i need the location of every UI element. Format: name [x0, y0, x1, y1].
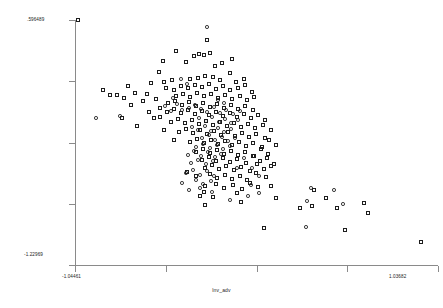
data-point-square	[239, 165, 242, 168]
data-point-square	[267, 138, 270, 141]
data-point-square	[205, 38, 208, 41]
data-point-square	[244, 161, 247, 164]
data-point-square	[197, 52, 200, 55]
data-point-square	[265, 156, 268, 159]
data-point-circle	[163, 104, 167, 108]
data-point-square	[229, 103, 232, 106]
data-point-square	[255, 162, 258, 165]
scatter-plot-figure: .596489 -1.22969 -1.04461 1.03682 lnv_ad…	[0, 0, 443, 308]
data-point-square	[197, 122, 200, 125]
data-point-square	[193, 112, 196, 115]
data-point-square	[222, 152, 225, 155]
data-point-square	[202, 141, 205, 144]
data-point-square	[238, 94, 241, 97]
data-point-square	[166, 101, 169, 104]
data-point-square	[115, 93, 118, 96]
data-point-square	[211, 75, 214, 78]
data-point-square	[218, 78, 221, 81]
data-point-square	[133, 91, 136, 94]
data-point-square	[202, 190, 205, 193]
data-point-square	[324, 196, 327, 199]
data-point-square	[310, 204, 313, 207]
data-point-circle	[184, 171, 188, 175]
data-point-square	[198, 128, 201, 131]
data-point-circle	[222, 101, 226, 105]
data-point-circle	[305, 199, 309, 203]
data-point-circle	[222, 130, 226, 134]
data-point-square	[252, 154, 255, 157]
data-point-square	[254, 171, 257, 174]
data-point-square	[194, 150, 197, 153]
data-point-square	[263, 118, 266, 121]
data-point-circle	[209, 179, 213, 183]
data-point-square	[235, 115, 238, 118]
data-point-square	[187, 100, 190, 103]
data-point-square	[230, 143, 233, 146]
data-point-circle	[208, 146, 212, 150]
data-point-circle	[94, 116, 98, 120]
data-point-square	[419, 240, 422, 243]
data-point-square	[242, 77, 245, 80]
data-point-square	[188, 95, 191, 98]
data-point-square	[120, 116, 123, 119]
data-point-circle	[235, 166, 239, 170]
data-point-square	[269, 164, 272, 167]
data-point-square	[253, 126, 256, 129]
x-axis-tick	[347, 266, 348, 272]
data-point-square	[209, 138, 212, 141]
data-point-square	[208, 105, 211, 108]
data-point-square	[234, 80, 237, 83]
data-point-circle	[229, 127, 233, 131]
data-point-circle	[257, 191, 261, 195]
data-point-circle	[200, 136, 204, 140]
data-point-circle	[304, 225, 308, 229]
data-point-square	[232, 168, 235, 171]
data-point-square	[208, 51, 211, 54]
data-point-square	[204, 119, 207, 122]
data-point-circle	[171, 96, 175, 100]
data-point-square	[200, 85, 203, 88]
data-point-square	[129, 103, 132, 106]
y-axis-tick	[69, 204, 76, 205]
data-point-square	[228, 111, 231, 114]
data-point-square	[196, 76, 199, 79]
data-point-circle	[180, 181, 184, 185]
data-point-square	[239, 200, 242, 203]
data-point-square	[194, 104, 197, 107]
data-point-circle	[187, 106, 191, 110]
data-point-square	[335, 206, 338, 209]
data-point-circle	[250, 166, 254, 170]
data-point-square	[161, 59, 164, 62]
data-point-square	[221, 156, 224, 159]
data-point-square	[242, 112, 245, 115]
data-point-circle	[186, 153, 190, 157]
data-point-square	[207, 82, 210, 85]
data-point-square	[220, 61, 223, 64]
data-point-circle	[169, 109, 173, 113]
data-point-square	[218, 120, 221, 123]
data-point-square	[251, 154, 254, 157]
data-point-square	[362, 201, 365, 204]
data-point-circle	[217, 120, 221, 124]
data-point-circle	[185, 82, 189, 86]
data-point-square	[256, 113, 259, 116]
data-point-square	[238, 174, 241, 177]
data-point-circle	[192, 149, 196, 153]
data-point-circle	[215, 143, 219, 147]
data-point-circle	[205, 110, 209, 114]
data-point-square	[236, 86, 239, 89]
data-point-circle	[205, 169, 209, 173]
data-point-square	[200, 109, 203, 112]
data-point-square	[180, 103, 183, 106]
data-point-square	[254, 132, 257, 135]
data-point-square	[211, 123, 214, 126]
data-point-square	[126, 84, 129, 87]
data-point-square	[188, 77, 191, 80]
data-point-square	[243, 104, 246, 107]
data-point-square	[195, 137, 198, 140]
y-axis-tick	[69, 143, 76, 144]
data-point-square	[222, 186, 225, 189]
data-point-circle	[223, 117, 227, 121]
data-point-square	[366, 211, 369, 214]
data-point-square	[230, 177, 233, 180]
